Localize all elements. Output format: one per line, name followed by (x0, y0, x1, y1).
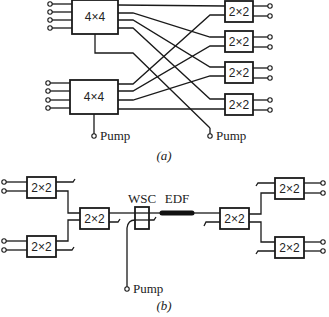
pump-fiber (127, 220, 135, 287)
splitter-4x4-top: 4×4 (72, 0, 118, 34)
terminated-port-icon (204, 222, 220, 226)
interconnect-fibers (118, 5, 225, 109)
bottom-splitter-inputs (46, 81, 70, 110)
svg-text:2×2: 2×2 (279, 241, 300, 255)
output-port-icon (268, 4, 272, 8)
input-port-icon (48, 26, 52, 30)
coupler-2x2-b-right-bottom: 2×2 (256, 237, 325, 258)
input-port-icon (2, 248, 6, 252)
input-port-icon (48, 2, 52, 6)
svg-text:2×2: 2×2 (229, 98, 250, 112)
caption-b: (b) (156, 298, 171, 313)
terminated-port-icon (149, 217, 156, 220)
svg-text:4×4: 4×4 (85, 10, 106, 24)
input-port-icon (2, 180, 6, 184)
coupler-2x2-a4: 2×2 (225, 94, 272, 115)
svg-text:2×2: 2×2 (229, 5, 250, 19)
input-port-icon (2, 189, 6, 193)
pump-label-2: Pump (216, 128, 246, 143)
edf-label: EDF (165, 191, 190, 206)
part-a: 4×4 4×4 2×2 2×2 2×2 (46, 0, 272, 163)
wsc-label: WSC (128, 191, 156, 206)
svg-text:4×4: 4×4 (84, 90, 105, 104)
pump-port-icon (125, 287, 129, 291)
input-port-icon (48, 18, 52, 22)
coupler-2x2-b-left-top: 2×2 (2, 177, 80, 213)
input-port-icon (48, 10, 52, 14)
terminated-port-icon (256, 183, 275, 186)
terminated-port-icon (56, 247, 74, 250)
terminated-port-icon (256, 251, 275, 254)
output-port-icon (321, 191, 325, 195)
top-splitter-inputs (48, 2, 72, 30)
output-port-icon (268, 108, 272, 112)
output-port-icon (268, 45, 272, 49)
svg-text:2×2: 2×2 (279, 182, 300, 196)
output-port-icon (268, 98, 272, 102)
splitter-4x4-bottom: 4×4 (70, 80, 118, 114)
wsc-coupler: WSC Pump (125, 191, 164, 296)
terminated-port-icon (109, 219, 120, 222)
svg-text:2×2: 2×2 (229, 35, 250, 49)
output-port-icon (321, 181, 325, 185)
svg-text:2×2: 2×2 (31, 181, 52, 195)
output-port-icon (321, 240, 325, 244)
coupler-2x2-a2: 2×2 (225, 31, 272, 52)
optical-amplifier-diagram: 4×4 4×4 2×2 2×2 2×2 (0, 0, 329, 317)
input-port-icon (46, 89, 50, 93)
input-port-icon (46, 106, 50, 110)
pump-label-1: Pump (100, 128, 130, 143)
svg-text:2×2: 2×2 (229, 66, 250, 80)
input-port-icon (46, 81, 50, 85)
pump-port-icon (208, 134, 212, 138)
coupler-2x2-b-left-bottom: 2×2 (2, 220, 80, 257)
coupler-2x2-a3: 2×2 (225, 62, 272, 83)
coupler-2x2-b-right-top: 2×2 (256, 178, 325, 199)
terminated-port-icon (56, 179, 75, 182)
svg-text:2×2: 2×2 (84, 212, 105, 226)
edf-fiber: EDF (149, 191, 220, 213)
part-b: 2×2 2×2 2×2 WSC (2, 177, 325, 313)
output-port-icon (268, 35, 272, 39)
pump-label: Pump (133, 281, 163, 296)
input-port-icon (2, 239, 6, 243)
output-port-icon (268, 76, 272, 80)
output-port-icon (321, 249, 325, 253)
pump-port-icon (92, 134, 96, 138)
svg-text:2×2: 2×2 (224, 212, 245, 226)
input-port-icon (46, 98, 50, 102)
coupler-2x2-a1: 2×2 (225, 1, 272, 22)
coupler-2x2-b-splitter: 2×2 (204, 193, 275, 242)
svg-text:2×2: 2×2 (31, 240, 52, 254)
caption-a: (a) (156, 148, 171, 163)
output-port-icon (268, 14, 272, 18)
output-port-icon (268, 66, 272, 70)
